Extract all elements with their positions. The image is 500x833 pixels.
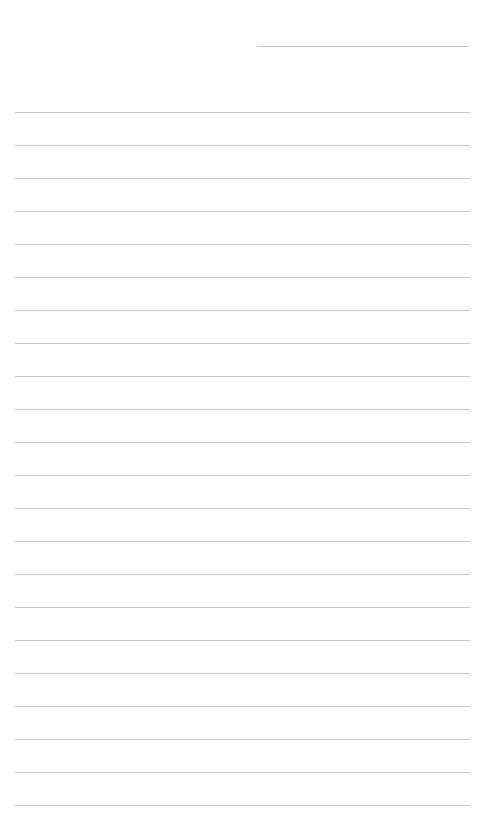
rule-line bbox=[15, 805, 470, 806]
rule-line bbox=[15, 409, 470, 410]
header-name-line bbox=[257, 46, 468, 47]
rule-line bbox=[15, 112, 470, 113]
rule-line bbox=[15, 508, 470, 509]
rule-line bbox=[15, 211, 470, 212]
rule-line bbox=[15, 343, 470, 344]
rule-line bbox=[15, 178, 470, 179]
rule-line bbox=[15, 739, 470, 740]
rule-line bbox=[15, 673, 470, 674]
rule-line bbox=[15, 475, 470, 476]
rule-line bbox=[15, 145, 470, 146]
rule-line bbox=[15, 541, 470, 542]
rule-line bbox=[15, 442, 470, 443]
rule-line bbox=[15, 607, 470, 608]
rule-line bbox=[15, 574, 470, 575]
rule-line bbox=[15, 640, 470, 641]
rule-line bbox=[15, 310, 470, 311]
rule-line bbox=[15, 706, 470, 707]
rule-line bbox=[15, 244, 470, 245]
rule-line bbox=[15, 277, 470, 278]
rule-line bbox=[15, 772, 470, 773]
rule-line bbox=[15, 376, 470, 377]
